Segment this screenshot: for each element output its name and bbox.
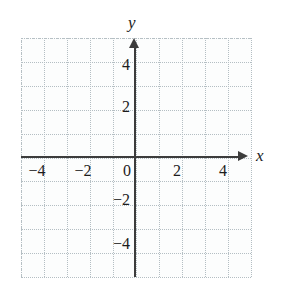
x-tick-label: 2 (162, 163, 192, 179)
x-axis-arrow-icon (238, 151, 248, 161)
gridline-vertical (251, 38, 252, 277)
y-axis-line (134, 46, 136, 277)
y-tick-label: −4 (100, 236, 130, 252)
y-axis-label: y (128, 14, 136, 31)
y-axis-arrow-icon (129, 38, 139, 48)
y-tick-label: −2 (100, 192, 130, 208)
gridline-horizontal (21, 277, 251, 278)
x-axis-line (21, 156, 240, 158)
x-tick-label: −4 (22, 163, 52, 179)
gridline-horizontal (21, 86, 251, 87)
coordinate-plane-figure: y x −4−202442−2−4 (0, 0, 281, 290)
gridline-horizontal (21, 229, 251, 230)
gridline-horizontal (21, 110, 251, 111)
gridline-horizontal (21, 62, 251, 63)
x-tick-label: 0 (112, 163, 142, 179)
gridline-horizontal (21, 205, 251, 206)
gridline-horizontal (21, 253, 251, 254)
x-tick-label: −2 (68, 163, 98, 179)
x-tick-label: 4 (208, 163, 238, 179)
gridline-horizontal (21, 134, 251, 135)
gridline-horizontal (21, 181, 251, 182)
x-axis-label: x (256, 147, 264, 164)
y-tick-label: 4 (100, 57, 130, 73)
gridline-horizontal (21, 158, 251, 159)
y-tick-label: 2 (100, 99, 130, 115)
